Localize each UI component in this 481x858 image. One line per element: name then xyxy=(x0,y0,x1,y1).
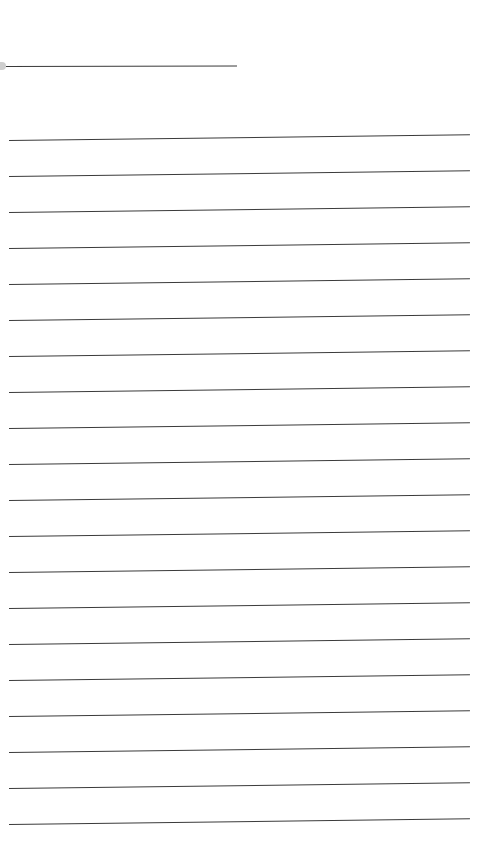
ruled-line xyxy=(9,566,470,573)
ruled-line xyxy=(9,746,470,753)
ruled-line xyxy=(9,494,470,501)
ruled-line xyxy=(9,206,470,213)
ruled-line xyxy=(9,530,470,537)
ruled-line xyxy=(9,386,470,393)
ruled-line xyxy=(9,134,470,141)
ruled-line xyxy=(9,278,470,285)
ruled-line xyxy=(9,602,470,609)
ruled-line xyxy=(9,350,470,357)
ruled-line xyxy=(9,782,470,789)
ruled-line xyxy=(9,314,470,321)
ruled-line xyxy=(9,242,470,249)
ruled-line xyxy=(9,818,470,825)
ruled-line xyxy=(9,674,470,681)
ruled-line xyxy=(9,422,470,429)
ruled-lines-container xyxy=(0,0,481,858)
ruled-line xyxy=(9,458,470,465)
ruled-line xyxy=(9,638,470,645)
ruled-line xyxy=(9,170,470,177)
ruled-line xyxy=(9,710,470,717)
